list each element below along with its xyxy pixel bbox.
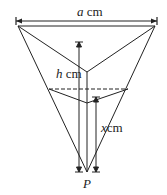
top-width-label: a cm xyxy=(77,4,103,19)
diagram-canvas: a cm h cm xcm P xyxy=(0,0,167,195)
height-dimension xyxy=(75,42,83,172)
pyramid-diagram: a cm h cm xcm P xyxy=(0,0,167,195)
apex-label: P xyxy=(82,176,91,191)
pyramid-outline xyxy=(18,26,155,172)
depth-label: xcm xyxy=(100,120,123,135)
height-label: h cm xyxy=(56,66,82,81)
water-surface xyxy=(49,89,128,103)
depth-dimension xyxy=(92,97,100,172)
